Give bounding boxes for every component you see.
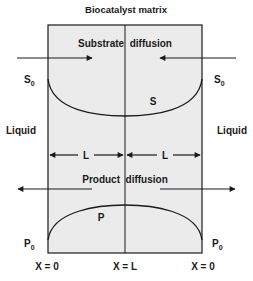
liquid-left-label: Liquid bbox=[6, 125, 36, 136]
s0-left-label: S0 bbox=[24, 74, 35, 87]
half-length-left-label: L bbox=[83, 150, 89, 161]
s-curve-label: S bbox=[150, 96, 157, 107]
x-label-left: X = 0 bbox=[35, 261, 59, 272]
p0-right-label: P0 bbox=[212, 238, 223, 251]
s0-right-label: S0 bbox=[214, 74, 225, 87]
x-label-right: X = 0 bbox=[191, 261, 215, 272]
diagram-title: Biocatalyst matrix bbox=[85, 4, 168, 15]
p0-left-label: P0 bbox=[24, 238, 35, 251]
x-label-center: X = L bbox=[113, 261, 137, 272]
half-length-right-label: L bbox=[162, 150, 168, 161]
p-curve-label: P bbox=[98, 212, 105, 223]
biocatalyst-diffusion-diagram: Biocatalyst matrix Substrate diffusion S… bbox=[0, 0, 253, 281]
substrate-diffusion-label: Substrate diffusion bbox=[78, 38, 172, 49]
product-diffusion-label: Product diffusion bbox=[82, 174, 168, 185]
liquid-right-label: Liquid bbox=[217, 125, 247, 136]
